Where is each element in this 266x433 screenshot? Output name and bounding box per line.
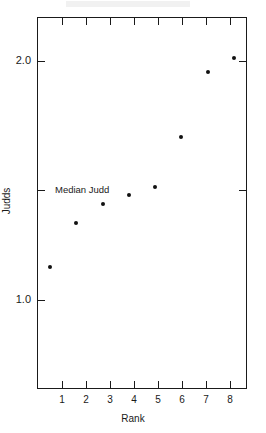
right-tick-median bbox=[239, 190, 246, 191]
ytick-label-1p0: 1.0 bbox=[0, 294, 31, 305]
x-axis-title: Rank bbox=[0, 414, 266, 424]
y-axis-title: Judds bbox=[2, 181, 12, 221]
bottom-tick-6 bbox=[182, 381, 183, 388]
scan-bleedthrough-artifact bbox=[66, 1, 190, 7]
top-tick-7 bbox=[206, 18, 207, 25]
data-point bbox=[101, 202, 105, 206]
data-point bbox=[127, 193, 131, 197]
xtick-label-4: 4 bbox=[126, 395, 142, 405]
top-tick-1 bbox=[62, 18, 63, 25]
data-point bbox=[232, 56, 236, 60]
bottom-tick-7 bbox=[206, 381, 207, 388]
median-judd-label: Median Judd bbox=[55, 185, 109, 195]
top-tick-8 bbox=[230, 18, 231, 25]
left-tick-2p0 bbox=[38, 61, 45, 62]
ytick-label-2p0: 2.0 bbox=[0, 55, 31, 66]
xtick-label-8: 8 bbox=[222, 395, 238, 405]
xtick-label-3: 3 bbox=[102, 395, 118, 405]
top-tick-6 bbox=[182, 18, 183, 25]
left-tick-1p0 bbox=[38, 300, 45, 301]
xtick-label-1: 1 bbox=[54, 395, 70, 405]
bottom-tick-2 bbox=[86, 381, 87, 388]
judds-rank-scatter-figure: 2.0 1.0 1 2 3 4 5 6 7 8 Rank Judds Media… bbox=[0, 0, 266, 433]
xtick-label-6: 6 bbox=[174, 395, 190, 405]
xtick-label-2: 2 bbox=[78, 395, 94, 405]
plot-frame bbox=[37, 17, 247, 389]
data-point bbox=[48, 265, 52, 269]
bottom-tick-8 bbox=[230, 381, 231, 388]
top-tick-3 bbox=[110, 18, 111, 25]
xtick-label-7: 7 bbox=[198, 395, 214, 405]
bottom-tick-5 bbox=[158, 381, 159, 388]
top-tick-4 bbox=[134, 18, 135, 25]
right-tick-2p0 bbox=[239, 61, 246, 62]
bottom-tick-1 bbox=[62, 381, 63, 388]
data-point bbox=[206, 70, 210, 74]
bottom-tick-4 bbox=[134, 381, 135, 388]
top-tick-2 bbox=[86, 18, 87, 25]
left-tick-median bbox=[38, 190, 45, 191]
top-tick-5 bbox=[158, 18, 159, 25]
bottom-tick-3 bbox=[110, 381, 111, 388]
xtick-label-5: 5 bbox=[150, 395, 166, 405]
